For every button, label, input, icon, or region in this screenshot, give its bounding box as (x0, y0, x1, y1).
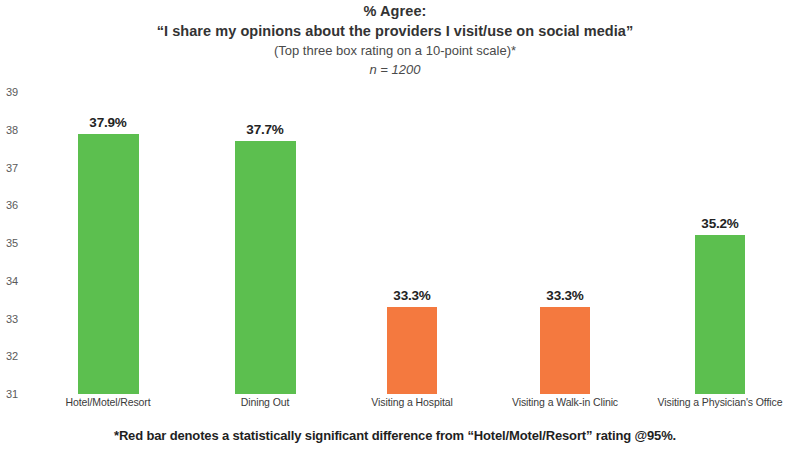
chart-title-statement: “I share my opinions about the providers… (0, 21, 790, 41)
y-axis-tick-label: 37 (6, 162, 32, 174)
bar (540, 307, 590, 394)
bar (387, 307, 437, 394)
chart-footnote: *Red bar denotes a statistically signifi… (0, 428, 790, 443)
bar-value-label: 37.9% (89, 115, 126, 130)
x-axis-category-label: Dining Out (241, 396, 290, 408)
chart-subtitle: (Top three box rating on a 10-point scal… (0, 41, 790, 60)
chart-title-block: % Agree: “I share my opinions about the … (0, 2, 790, 79)
chart-title-primary: % Agree: (0, 2, 790, 21)
y-axis-tick-label: 38 (6, 124, 32, 136)
x-axis-category-label: Visiting a Walk-in Clinic (512, 396, 618, 408)
y-axis-tick-label: 39 (6, 86, 32, 98)
x-axis-category-labels: Hotel/Motel/ResortDining OutVisiting a H… (0, 396, 790, 414)
bar-value-label: 33.3% (393, 288, 430, 303)
bar (235, 141, 296, 394)
bar (695, 235, 745, 394)
y-axis-tick-label: 33 (6, 313, 32, 325)
bar-value-label: 35.2% (701, 216, 738, 231)
y-axis-tick-label: 34 (6, 275, 32, 287)
y-axis-tick-label: 32 (6, 350, 32, 362)
bar (78, 134, 139, 394)
chart-plot-area: 313233343536373839 37.9%37.7%33.3%33.3%3… (0, 92, 790, 394)
x-axis-category-label: Hotel/Motel/Resort (65, 396, 150, 408)
y-axis-tick-label: 35 (6, 237, 32, 249)
bar-value-label: 33.3% (546, 288, 583, 303)
bar-value-label: 37.7% (246, 122, 283, 137)
x-axis-category-label: Visiting a Physician's Office (658, 396, 783, 408)
y-axis-tick-label: 36 (6, 199, 32, 211)
chart-sample-size: n = 1200 (0, 60, 790, 79)
x-axis-category-label: Visiting a Hospital (371, 396, 452, 408)
